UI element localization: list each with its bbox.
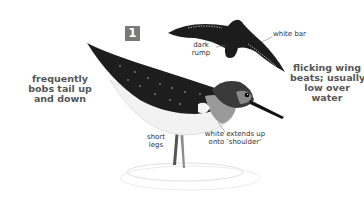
- shoulder-label: white extends up onto ‘shoulder’: [200, 130, 270, 146]
- dark-rump-label: dark rump: [186, 41, 216, 57]
- water-ripple-icon: [120, 163, 260, 190]
- legs-label-line-1: short: [143, 133, 169, 141]
- tail-bobbing-label: frequently bobs tail up and down: [25, 74, 95, 104]
- shoulder-label-line-2: onto ‘shoulder’: [200, 138, 270, 146]
- rump-label-line-2: rump: [186, 49, 216, 57]
- legs-label-line-2: legs: [143, 141, 169, 149]
- field-guide-plate: 1 frequently bobs tail up and down flick…: [0, 0, 364, 207]
- tail-label-line-3: and down: [25, 94, 95, 104]
- flight-label-line-4: water: [290, 93, 364, 103]
- white-bar-label: white bar: [273, 30, 306, 38]
- flight-behaviour-label: flicking wing beats; usually low over wa…: [290, 63, 364, 103]
- short-legs-label: short legs: [143, 133, 169, 149]
- standing-sandpiper-icon: [87, 43, 284, 168]
- rump-label-line-1: dark: [186, 41, 216, 49]
- shoulder-label-line-1: white extends up: [200, 130, 270, 138]
- plate-number-badge: 1: [125, 26, 140, 41]
